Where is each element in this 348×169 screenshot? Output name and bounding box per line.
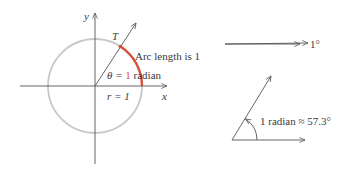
one-degree-label: 1° [310,38,320,50]
theta-label: θ = 1 radian [107,69,162,81]
one-degree-figure: 1° [225,38,320,50]
point-t-dot [119,45,123,49]
y-axis-label: y [83,10,89,22]
one-radian-label: 1 radian ≈ 57.3° [260,115,331,127]
point-t-label: T [112,30,119,42]
theta-prefix: θ = [107,69,125,81]
x-axis-label: x [161,90,167,102]
radius-label: r = 1 [107,90,130,102]
unit-circle-figure: y x T Arc length is 1 θ = 1 radian r = 1 [20,10,200,164]
one-radian-terminal-ray [232,76,271,140]
one-radian-figure: 1 radian ≈ 57.3° [232,76,331,140]
theta-suffix: radian [131,69,162,81]
arc-length-label: Arc length is 1 [135,50,200,62]
radian-diagram: y x T Arc length is 1 θ = 1 radian r = 1… [0,0,348,169]
one-radian-angle-arc [246,119,258,140]
